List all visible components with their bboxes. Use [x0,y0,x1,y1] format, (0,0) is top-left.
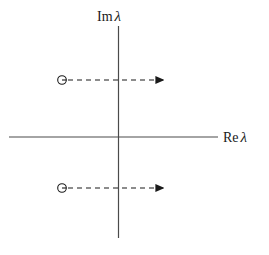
imaginary-axis-label-prefix: Im [97,9,113,24]
imaginary-axis-label: Imλ [97,9,121,24]
real-axis-label: Reλ [223,130,247,145]
eigenvalue-diagram: Imλ Reλ [0,0,269,255]
complex-plane-plot [0,0,269,255]
real-axis-label-symbol: λ [239,129,248,145]
real-axis-label-prefix: Re [223,130,239,145]
imaginary-axis-label-symbol: λ [113,8,122,24]
